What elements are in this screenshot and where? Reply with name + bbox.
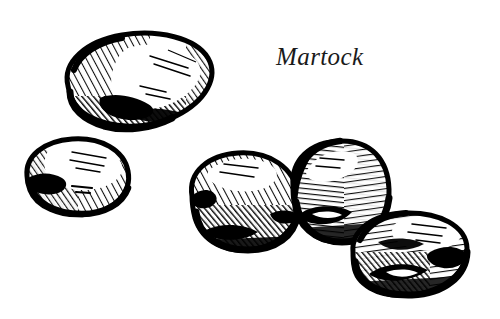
variety-name-caption: Martock xyxy=(276,44,364,69)
illustration-plate: Martock xyxy=(0,0,500,319)
potato-illustration xyxy=(0,0,500,319)
